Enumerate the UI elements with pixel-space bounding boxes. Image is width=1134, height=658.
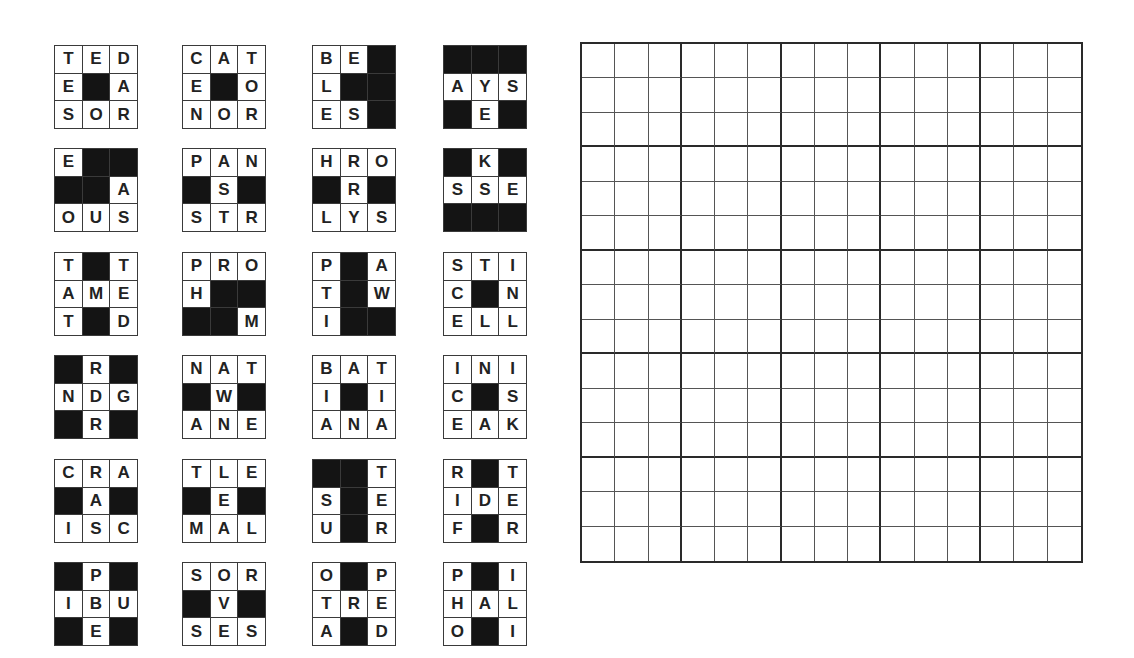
grid-cell[interactable] xyxy=(782,458,815,492)
grid-cell[interactable] xyxy=(748,147,781,181)
grid-cell[interactable] xyxy=(915,44,948,78)
grid-cell[interactable] xyxy=(881,216,914,250)
grid-cell[interactable] xyxy=(948,251,981,285)
grid-cell[interactable] xyxy=(615,389,648,423)
grid-cell[interactable] xyxy=(848,44,881,78)
grid-cell[interactable] xyxy=(981,527,1014,561)
grid-cell[interactable] xyxy=(881,44,914,78)
grid-cell[interactable] xyxy=(981,147,1014,181)
grid-cell[interactable] xyxy=(1014,44,1047,78)
grid-cell[interactable] xyxy=(915,389,948,423)
grid-cell[interactable] xyxy=(715,251,748,285)
puzzle-tile[interactable]: PATWI xyxy=(312,252,396,336)
grid-cell[interactable] xyxy=(881,423,914,457)
grid-cell[interactable] xyxy=(649,147,682,181)
grid-cell[interactable] xyxy=(881,78,914,112)
grid-cell[interactable] xyxy=(948,285,981,319)
grid-cell[interactable] xyxy=(715,527,748,561)
grid-cell[interactable] xyxy=(915,78,948,112)
grid-cell[interactable] xyxy=(1014,113,1047,147)
grid-cell[interactable] xyxy=(615,527,648,561)
grid-cell[interactable] xyxy=(981,216,1014,250)
grid-cell[interactable] xyxy=(948,147,981,181)
grid-cell[interactable] xyxy=(782,216,815,250)
grid-cell[interactable] xyxy=(782,389,815,423)
grid-cell[interactable] xyxy=(1048,216,1081,250)
grid-cell[interactable] xyxy=(615,182,648,216)
grid-cell[interactable] xyxy=(981,423,1014,457)
grid-cell[interactable] xyxy=(981,113,1014,147)
grid-cell[interactable] xyxy=(848,527,881,561)
grid-cell[interactable] xyxy=(582,492,615,526)
grid-cell[interactable] xyxy=(782,44,815,78)
puzzle-tile[interactable]: CRAAISC xyxy=(54,459,138,543)
grid-cell[interactable] xyxy=(782,492,815,526)
grid-cell[interactable] xyxy=(1048,182,1081,216)
grid-cell[interactable] xyxy=(782,113,815,147)
grid-cell[interactable] xyxy=(948,527,981,561)
grid-cell[interactable] xyxy=(815,44,848,78)
grid-cell[interactable] xyxy=(615,492,648,526)
grid-cell[interactable] xyxy=(715,320,748,354)
grid-cell[interactable] xyxy=(748,182,781,216)
grid-cell[interactable] xyxy=(881,320,914,354)
grid-cell[interactable] xyxy=(881,251,914,285)
grid-cell[interactable] xyxy=(1048,44,1081,78)
grid-cell[interactable] xyxy=(682,354,715,388)
grid-cell[interactable] xyxy=(715,216,748,250)
grid-cell[interactable] xyxy=(881,285,914,319)
grid-cell[interactable] xyxy=(748,389,781,423)
grid-cell[interactable] xyxy=(881,458,914,492)
grid-cell[interactable] xyxy=(748,492,781,526)
grid-cell[interactable] xyxy=(981,458,1014,492)
grid-cell[interactable] xyxy=(615,216,648,250)
grid-cell[interactable] xyxy=(682,78,715,112)
grid-cell[interactable] xyxy=(915,113,948,147)
grid-cell[interactable] xyxy=(615,147,648,181)
grid-cell[interactable] xyxy=(782,78,815,112)
grid-cell[interactable] xyxy=(682,389,715,423)
grid-cell[interactable] xyxy=(748,285,781,319)
grid-cell[interactable] xyxy=(1014,182,1047,216)
grid-cell[interactable] xyxy=(748,458,781,492)
grid-cell[interactable] xyxy=(981,320,1014,354)
puzzle-tile[interactable]: KSSE xyxy=(443,148,527,232)
grid-cell[interactable] xyxy=(1048,320,1081,354)
grid-cell[interactable] xyxy=(915,285,948,319)
puzzle-tile[interactable]: TLEEMAL xyxy=(182,459,266,543)
grid-cell[interactable] xyxy=(649,44,682,78)
grid-cell[interactable] xyxy=(582,78,615,112)
puzzle-tile[interactable]: AYSE xyxy=(443,45,527,129)
grid-cell[interactable] xyxy=(948,78,981,112)
grid-cell[interactable] xyxy=(1048,251,1081,285)
grid-cell[interactable] xyxy=(848,216,881,250)
grid-cell[interactable] xyxy=(682,147,715,181)
grid-cell[interactable] xyxy=(1048,423,1081,457)
grid-cell[interactable] xyxy=(881,354,914,388)
grid-cell[interactable] xyxy=(815,182,848,216)
puzzle-tile[interactable]: SORVSES xyxy=(182,562,266,646)
grid-cell[interactable] xyxy=(881,389,914,423)
grid-cell[interactable] xyxy=(748,44,781,78)
grid-cell[interactable] xyxy=(782,423,815,457)
grid-cell[interactable] xyxy=(1048,527,1081,561)
puzzle-tile[interactable]: PROHM xyxy=(182,252,266,336)
grid-cell[interactable] xyxy=(815,78,848,112)
puzzle-tile[interactable]: HRORLYS xyxy=(312,148,396,232)
grid-cell[interactable] xyxy=(715,389,748,423)
grid-cell[interactable] xyxy=(948,216,981,250)
grid-cell[interactable] xyxy=(615,423,648,457)
grid-cell[interactable] xyxy=(748,320,781,354)
grid-cell[interactable] xyxy=(615,251,648,285)
grid-cell[interactable] xyxy=(615,458,648,492)
grid-cell[interactable] xyxy=(615,285,648,319)
grid-cell[interactable] xyxy=(682,113,715,147)
grid-cell[interactable] xyxy=(682,216,715,250)
grid-cell[interactable] xyxy=(715,285,748,319)
grid-cell[interactable] xyxy=(715,147,748,181)
grid-cell[interactable] xyxy=(649,423,682,457)
grid-cell[interactable] xyxy=(815,285,848,319)
puzzle-tile[interactable]: PIBUE xyxy=(54,562,138,646)
grid-cell[interactable] xyxy=(848,182,881,216)
grid-cell[interactable] xyxy=(815,492,848,526)
